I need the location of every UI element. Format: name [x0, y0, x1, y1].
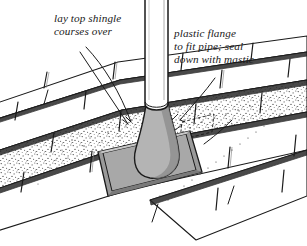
pipe-body: [145, 0, 168, 110]
callout-left-line-1: lay top shingle: [54, 12, 121, 25]
callout-left-line-2: courses over: [54, 25, 121, 38]
callout-right-line-3: down with mastic: [174, 53, 254, 66]
callout-right-line-2: to fit pipe; seal: [174, 40, 254, 53]
vent-pipe: [145, 0, 168, 110]
illustration-drawing: [0, 0, 307, 246]
callout-lay-top-shingle-courses-over: lay top shingle courses over: [54, 12, 121, 38]
callout-plastic-flange-to-fit-pipe: plastic flange to fit pipe; seal down wi…: [174, 27, 254, 67]
roof-pipe-flashing-illustration: lay top shingle courses over plastic fla…: [0, 0, 307, 246]
callout-right-line-1: plastic flange: [174, 27, 254, 40]
